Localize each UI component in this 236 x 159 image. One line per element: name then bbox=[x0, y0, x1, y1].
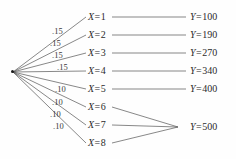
y-label-5: Y=400 bbox=[190, 84, 217, 94]
fan-edge-3 bbox=[13, 53, 86, 72]
equals-sign-8: = bbox=[94, 137, 101, 148]
equals-sign-3: = bbox=[94, 47, 101, 58]
outcome-edge-group bbox=[112, 17, 186, 143]
probability-label-1: .15 bbox=[52, 27, 63, 36]
y-value-1: 100 bbox=[202, 11, 217, 22]
probability-label-8: .10 bbox=[53, 122, 64, 131]
probability-label-3: .15 bbox=[52, 51, 63, 60]
fan-edge-5 bbox=[13, 72, 86, 89]
fan-edge-group bbox=[13, 17, 86, 143]
outcome-edge-8 bbox=[112, 127, 178, 143]
equals-sign-4: = bbox=[94, 65, 101, 76]
x-value-2: 2 bbox=[101, 29, 106, 40]
equals-sign-2: = bbox=[94, 29, 101, 40]
y-variable-3: Y bbox=[190, 47, 196, 58]
tree-edges-svg bbox=[0, 0, 236, 159]
root-node bbox=[11, 70, 14, 73]
y-variable-6: Y bbox=[190, 121, 196, 132]
fan-edge-4 bbox=[13, 71, 86, 72]
y-value-5: 400 bbox=[202, 83, 217, 94]
y-variable-5: Y bbox=[190, 83, 196, 94]
x-label-5: X=5 bbox=[88, 84, 106, 94]
y-label-6: Y=500 bbox=[190, 122, 217, 132]
equals-sign-1: = bbox=[94, 11, 101, 22]
y-variable-2: Y bbox=[190, 29, 196, 40]
x-label-4: X=4 bbox=[88, 66, 106, 76]
probability-label-5: .10 bbox=[55, 85, 66, 94]
fan-edge-8 bbox=[13, 72, 86, 143]
x-value-5: 5 bbox=[101, 83, 106, 94]
outcome-edge-7 bbox=[112, 125, 178, 127]
equals-sign-5: = bbox=[94, 83, 101, 94]
y-label-1: Y=100 bbox=[190, 12, 217, 22]
probability-tree-diagram: .15 .15 .15 .15 .10 .10 .10 .10 X=1 X=2 … bbox=[0, 0, 236, 159]
equals-sign-6: = bbox=[94, 101, 101, 112]
x-label-3: X=3 bbox=[88, 48, 106, 58]
y-value-2: 190 bbox=[202, 29, 217, 40]
x-label-2: X=2 bbox=[88, 30, 106, 40]
y-variable-1: Y bbox=[190, 11, 196, 22]
x-label-1: X=1 bbox=[88, 12, 106, 22]
x-value-4: 4 bbox=[101, 65, 106, 76]
probability-label-6: .10 bbox=[52, 98, 63, 107]
x-value-3: 3 bbox=[101, 47, 106, 58]
probability-label-2: .15 bbox=[50, 39, 61, 48]
x-value-6: 6 bbox=[101, 101, 106, 112]
probability-label-7: .10 bbox=[50, 110, 61, 119]
x-label-8: X=8 bbox=[88, 138, 106, 148]
x-label-6: X=6 bbox=[88, 102, 106, 112]
probability-label-4: .15 bbox=[57, 63, 68, 72]
x-label-7: X=7 bbox=[88, 120, 106, 130]
y-variable-4: Y bbox=[190, 65, 196, 76]
outcome-edge-6 bbox=[112, 107, 178, 127]
x-value-8: 8 bbox=[101, 137, 106, 148]
x-value-1: 1 bbox=[101, 11, 106, 22]
equals-sign-7: = bbox=[94, 119, 101, 130]
y-label-3: Y=270 bbox=[190, 48, 217, 58]
y-label-2: Y=190 bbox=[190, 30, 217, 40]
y-label-4: Y=340 bbox=[190, 66, 217, 76]
y-value-6: 500 bbox=[202, 121, 217, 132]
y-value-4: 340 bbox=[202, 65, 217, 76]
fan-edge-6 bbox=[13, 72, 86, 107]
x-value-7: 7 bbox=[101, 119, 106, 130]
y-value-3: 270 bbox=[202, 47, 217, 58]
